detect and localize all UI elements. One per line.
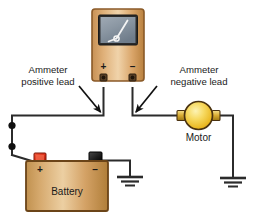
- circuit-diagram: + – Motor: [0, 0, 255, 220]
- ammeter-negative-label-line1: Ammeter: [180, 64, 220, 75]
- motor-label: Motor: [186, 132, 212, 143]
- motor[interactable]: Motor: [177, 102, 220, 144]
- wire-motor-to-ground: [218, 116, 233, 178]
- ammeter-positive-terminal-hole: [102, 76, 106, 80]
- callout-ammeter-negative: Ammeter negative lead: [136, 64, 228, 112]
- battery[interactable]: + – Battery: [26, 152, 108, 211]
- callout-ammeter-positive: Ammeter positive lead: [21, 64, 100, 112]
- ground-symbol-right: [220, 178, 246, 187]
- ground-symbol-center: [117, 177, 143, 186]
- junction-dot-lower: [8, 143, 15, 150]
- ammeter-positive-label-line2: positive lead: [21, 76, 74, 87]
- ammeter-positive-terminal[interactable]: [100, 74, 107, 81]
- ammeter-negative-callout-arrow: [136, 86, 157, 112]
- ammeter[interactable]: + –: [92, 9, 144, 81]
- ammeter-screen: [101, 17, 136, 43]
- circuit-svg: + – Motor: [0, 0, 255, 220]
- motor-housing: [185, 102, 213, 130]
- battery-negative-symbol: –: [92, 164, 98, 175]
- battery-positive-symbol: +: [37, 164, 43, 175]
- ammeter-positive-symbol: +: [101, 61, 107, 72]
- battery-label: Battery: [51, 186, 83, 197]
- battery-positive-terminal-highlight: [36, 155, 44, 160]
- ammeter-negative-label-line2: negative lead: [170, 76, 227, 87]
- ammeter-negative-terminal[interactable]: [129, 74, 136, 81]
- ammeter-negative-symbol: –: [130, 61, 136, 72]
- ammeter-negative-terminal-hole: [131, 76, 135, 80]
- wire-ammeter-negative-lead: [133, 88, 181, 116]
- ammeter-positive-callout-arrow: [79, 86, 101, 112]
- ammeter-positive-label-line1: Ammeter: [29, 64, 69, 75]
- junction-dot-upper: [8, 122, 15, 129]
